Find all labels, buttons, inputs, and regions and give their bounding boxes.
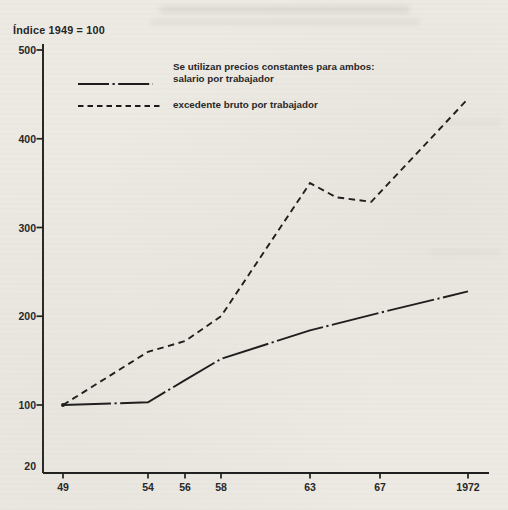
line-chart xyxy=(0,0,508,510)
series-line-salario-por-trabajador xyxy=(63,291,468,405)
series-start-dot xyxy=(61,403,65,407)
scanned-chart-page: Índice 1949 = 100 500 400 300 200 100 20… xyxy=(0,0,508,510)
y-axis-ticks xyxy=(37,50,44,405)
series-line-excedente-bruto-por-trabajador xyxy=(63,99,468,405)
